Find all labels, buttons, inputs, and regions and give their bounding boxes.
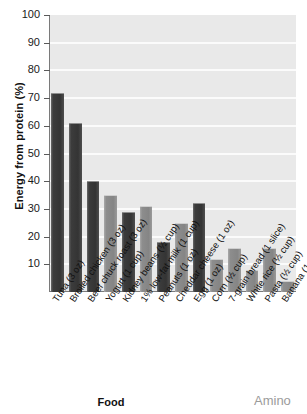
gridline [50, 125, 296, 127]
y-axis-tick-label: 80 [0, 64, 40, 75]
x-axis-title: Food [0, 396, 222, 408]
y-axis-tick-label: 70 [0, 92, 40, 103]
y-axis-tick [44, 209, 50, 210]
y-axis-tick-label: 10 [0, 258, 40, 269]
y-axis-tick [44, 154, 50, 155]
y-axis-tick [44, 126, 50, 127]
y-axis-tick-label: 50 [0, 148, 40, 159]
y-axis-tick-label: 100 [0, 9, 40, 20]
y-axis-tick [44, 15, 50, 16]
adjacent-page-text: Amino [254, 393, 291, 408]
gridline [50, 97, 296, 99]
gridline [50, 69, 296, 71]
y-axis-tick-label: 30 [0, 203, 40, 214]
y-axis-tick [44, 181, 50, 182]
y-axis-tick-label: 40 [0, 175, 40, 186]
y-axis-tick [44, 70, 50, 71]
y-axis-tick-label: 90 [0, 37, 40, 48]
y-axis-tick [44, 98, 50, 99]
y-axis-tick-label: 20 [0, 231, 40, 242]
bar [51, 93, 64, 292]
gridline [50, 153, 296, 155]
y-axis-tick [44, 264, 50, 265]
y-axis-tick [44, 237, 50, 238]
bar-chart-figure: Energy from protein (%) 1020304050607080… [0, 0, 307, 414]
gridline [50, 42, 296, 44]
y-axis-tick-label: 60 [0, 120, 40, 131]
y-axis-tick [44, 43, 50, 44]
